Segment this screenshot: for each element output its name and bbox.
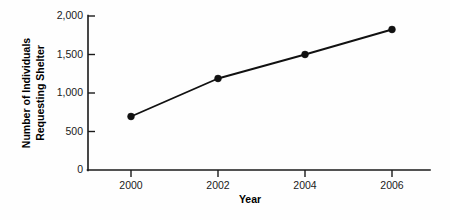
x-axis-title: Year xyxy=(239,193,261,205)
data-point-2000 xyxy=(128,113,135,120)
y-tick-label-1000: 1,000 xyxy=(57,86,83,98)
x-tick-label-2002: 2002 xyxy=(206,179,230,191)
y-axis-title-line-2: Requesting Shelter xyxy=(34,45,46,141)
y-tick-label-500: 500 xyxy=(65,125,83,137)
y-tick-label-0: 0 xyxy=(77,163,83,175)
data-point-2006 xyxy=(389,26,396,33)
series-line-shelter-requests xyxy=(131,30,392,117)
y-tick-label-1500: 1,500 xyxy=(57,48,83,60)
x-tick-label-2006: 2006 xyxy=(380,179,404,191)
x-tick-label-2000: 2000 xyxy=(119,179,143,191)
x-tick-label-2004: 2004 xyxy=(293,179,317,191)
data-point-2004 xyxy=(302,51,309,58)
y-axis-title-line-1: Number of Individuals xyxy=(20,38,32,148)
chart-container: 2,000 1,500 1,000 500 0 2000 2002 2004 2… xyxy=(0,0,450,220)
line-chart: 2,000 1,500 1,000 500 0 2000 2002 2004 2… xyxy=(0,0,450,220)
data-point-2002 xyxy=(215,75,222,82)
y-tick-label-2000: 2,000 xyxy=(57,9,83,21)
